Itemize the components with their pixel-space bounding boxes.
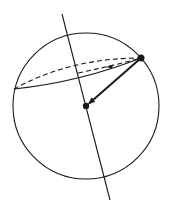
center-point bbox=[83, 103, 89, 109]
sphere-diagram bbox=[0, 0, 169, 206]
surface-point bbox=[138, 55, 145, 62]
radius-vector-arrow bbox=[89, 58, 141, 104]
direction-arrow-icon bbox=[106, 65, 113, 69]
